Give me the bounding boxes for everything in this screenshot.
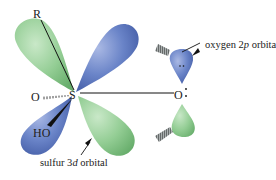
atom-oxygen-right-label: O: [174, 88, 183, 102]
oxygen-label-prefix: oxygen 2: [205, 39, 244, 50]
sulfur-3d-orbital-label: sulfur 3d orbital: [40, 157, 108, 168]
orbital-overlap-upper: [155, 44, 170, 56]
sulfur-d-lobe-upper-right: [76, 24, 139, 92]
atom-oxygen-left-label: O: [31, 90, 40, 104]
sulfonic-acid-orbital-diagram: R S O HO O oxygen 2p orbital sulfur 3d o…: [0, 0, 276, 180]
sulfur-label-suffix: orbital: [78, 157, 108, 168]
oxygen-lone-pair-right: [185, 88, 187, 97]
arrow-to-sulfur-orbital: [81, 138, 92, 155]
atom-hydroxyl-label: HO: [33, 126, 51, 140]
atom-r-label: R: [33, 7, 41, 21]
oxygen-2p-orbital-label: oxygen 2p orbital: [205, 39, 276, 50]
oxygen-p-lobe-upper: [170, 49, 193, 84]
sulfur-label-prefix: sulfur 3: [40, 157, 72, 168]
atom-sulfur-label: S: [69, 88, 76, 102]
orbital-overlap-lower: [155, 127, 173, 142]
bond-s-o-left-hashed: [44, 95, 68, 99]
oxygen-p-lobe-lower: [172, 104, 195, 137]
oxygen-label-suffix: orbital: [249, 39, 276, 50]
sulfur-d-lobe-upper-left: [15, 18, 74, 92]
